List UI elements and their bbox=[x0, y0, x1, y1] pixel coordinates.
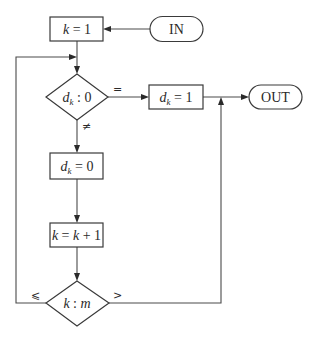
arrowhead bbox=[74, 215, 80, 223]
node-set-d0: dk = 0 bbox=[50, 153, 103, 179]
edge-label-greater: > bbox=[113, 289, 122, 302]
edge-label-less-equal: ⩽ bbox=[31, 289, 40, 302]
edge-label-not-equal: ≠ bbox=[82, 120, 91, 133]
arrowhead bbox=[241, 94, 249, 100]
node-out-label: OUT bbox=[261, 90, 290, 105]
arrowhead bbox=[74, 66, 80, 74]
node-check-k-label: k : m bbox=[63, 296, 90, 311]
edge-check-k-to-out bbox=[109, 102, 221, 303]
node-init-k: k = 1 bbox=[50, 17, 103, 41]
arrowhead bbox=[103, 26, 111, 32]
arrowhead bbox=[74, 145, 80, 153]
arrowhead bbox=[69, 54, 77, 60]
arrowhead bbox=[218, 97, 224, 105]
node-in-label: IN bbox=[169, 22, 184, 37]
node-check-k: k : m bbox=[46, 281, 109, 326]
edge-label-equal: = bbox=[113, 83, 122, 96]
node-inc-k: k = k + 1 bbox=[50, 223, 103, 247]
node-check-d: dk : 0 bbox=[46, 74, 108, 120]
node-inc-k-label: k = k + 1 bbox=[52, 228, 101, 243]
node-set-d1-label: dk = 1 bbox=[160, 90, 193, 107]
node-set-d0-label: dk = 0 bbox=[61, 159, 94, 176]
node-out: OUT bbox=[249, 85, 302, 109]
node-check-d-label: dk : 0 bbox=[63, 90, 92, 107]
flowchart: = ≠ ⩽ > IN k = 1 dk : 0 dk = 1 OUT dk = … bbox=[0, 0, 311, 341]
node-init-k-label: k = 1 bbox=[63, 22, 91, 37]
arrowhead bbox=[74, 273, 80, 281]
arrowhead bbox=[141, 94, 149, 100]
node-set-d1: dk = 1 bbox=[149, 85, 203, 109]
node-in: IN bbox=[150, 17, 203, 42]
